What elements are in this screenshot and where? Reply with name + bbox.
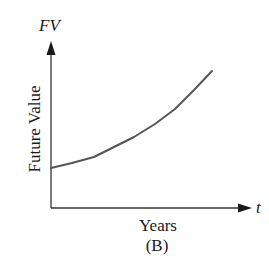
figure-caption: (B) bbox=[146, 236, 169, 256]
x-axis-arrow-icon bbox=[238, 204, 252, 213]
x-axis-symbol: t bbox=[256, 198, 261, 218]
future-value-curve bbox=[51, 71, 212, 168]
x-axis-label: Years bbox=[139, 216, 177, 236]
y-axis-arrow-icon bbox=[47, 41, 56, 55]
y-axis-label: Future Value bbox=[25, 85, 45, 172]
y-axis-symbol: FV bbox=[39, 16, 60, 36]
